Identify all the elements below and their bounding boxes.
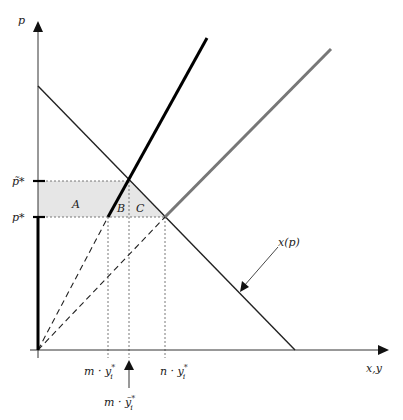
n-y-star-label: n · y*i [160, 363, 188, 381]
demand-pointer-arrowhead-icon [240, 281, 249, 292]
area-b-label: B [116, 202, 125, 215]
p-axis-label: p [18, 14, 25, 27]
shaded-area-abc [38, 181, 165, 217]
economics-diagram: p x,y p̃* p* A B C x(p) m · y*i n · y*i … [0, 0, 403, 420]
supply-m-dashed-ray [38, 217, 108, 350]
x-axis-label: x,y [366, 362, 383, 375]
m-y-tilde-star-arrowhead-icon [124, 360, 134, 370]
x-axis-arrow-icon [378, 345, 389, 355]
p-axis-arrow-icon [33, 21, 43, 32]
area-c-label: C [136, 202, 145, 215]
m-y-tilde-star-label: m · ỹ*i [104, 394, 135, 412]
area-a-label: A [71, 198, 80, 211]
supply-n-dashed-ray [38, 217, 165, 350]
supply-curve-n [165, 49, 331, 217]
demand-label-pointer [244, 247, 278, 286]
demand-label: x(p) [278, 236, 300, 249]
p-tilde-star-label: p̃* [12, 175, 25, 188]
m-y-star-label: m · y*i [84, 363, 115, 381]
p-star-label: p* [12, 211, 25, 224]
